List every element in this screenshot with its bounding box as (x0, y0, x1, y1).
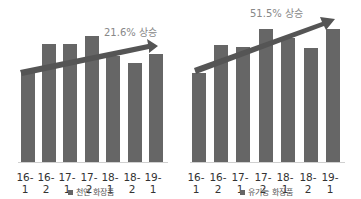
x-tick: 16-2 (207, 171, 229, 195)
legend-swatch (68, 190, 73, 195)
legend-swatch (240, 190, 245, 195)
x-tick: 19-1 (319, 171, 341, 195)
legend-label: 유기능 화장품 (248, 188, 293, 197)
trend-arrow-icon (180, 0, 361, 199)
growth-annotation: 21.6% 상승 (104, 24, 157, 39)
x-tick: 19-1 (142, 171, 164, 195)
x-tick: 16-1 (14, 171, 36, 195)
right-chart: 51.5% 상승 16-1 16-2 17-1 17-2 18-1 18-2 1… (180, 0, 361, 199)
legend: 유기능 화장품 (240, 186, 293, 197)
x-tick: 18-2 (297, 171, 319, 195)
legend-label: 천연 화장품 (76, 188, 114, 197)
x-tick: 16-2 (35, 171, 57, 195)
x-tick: 18-2 (121, 171, 143, 195)
growth-annotation: 51.5% 상승 (250, 5, 303, 20)
legend: 천연 화장품 (68, 186, 114, 197)
x-tick: 16-1 (185, 171, 207, 195)
left-chart: 21.6% 상승 16-1 16-2 17-1 17-2 18-1 18-2 1… (0, 0, 180, 199)
